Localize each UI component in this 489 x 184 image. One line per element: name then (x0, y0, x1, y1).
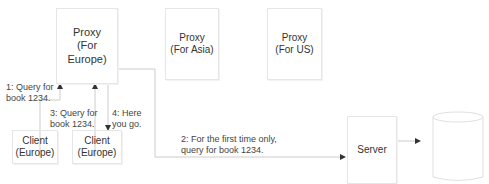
proxy-asia-box: Proxy (For Asia) (165, 8, 219, 80)
step3-label: 3: Query for book 1234. (50, 108, 98, 130)
proxy-us-box: Proxy (For US) (267, 8, 322, 80)
client-europe-1-label: Client (Europe) (16, 135, 55, 159)
step4-label: 4: Here you go. (112, 108, 142, 130)
client-europe-2-box: Client (Europe) (72, 130, 122, 164)
proxy-us-label: Proxy (For US) (275, 32, 313, 56)
step2-label: 2: For the first time only, query for bo… (181, 134, 277, 156)
proxy-asia-label: Proxy (For Asia) (170, 32, 213, 56)
client-europe-1-box: Client (Europe) (12, 130, 58, 164)
proxy-europe-box: Proxy (For Europe) (56, 8, 118, 84)
server-label: Server (357, 144, 386, 156)
database-cylinder (433, 112, 483, 181)
server-box: Server (347, 116, 397, 184)
client-europe-2-label: Client (Europe) (78, 135, 117, 159)
proxy-europe-label: Proxy (For Europe) (67, 26, 106, 66)
step1-label: 1: Query for book 1234. (6, 82, 54, 104)
